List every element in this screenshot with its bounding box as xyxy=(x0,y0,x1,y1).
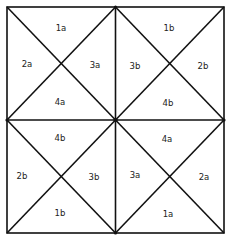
triangle-label: 3a xyxy=(90,60,101,70)
triangle-label: 1a xyxy=(163,209,174,219)
triangle-label: 3a xyxy=(130,170,141,180)
triangle-label: 2b xyxy=(198,61,209,71)
triangle-label: 1b xyxy=(164,23,175,33)
triangle-grid-diagram: 1a 2a 3a 4a 1b 3b 2b 4b 4b 2b 3b 1b 4a 3… xyxy=(0,0,228,240)
triangle-label: 3b xyxy=(130,61,141,71)
triangle-label: 2a xyxy=(22,59,33,69)
triangle-label: 1a xyxy=(56,23,67,33)
triangle-label: 3b xyxy=(89,172,100,182)
triangle-label: 2a xyxy=(199,172,210,182)
triangle-label: 4b xyxy=(163,98,174,108)
triangle-label: 4a xyxy=(162,134,173,144)
triangle-label: 4a xyxy=(55,97,66,107)
triangle-label: 4b xyxy=(55,133,66,143)
triangle-label: 1b xyxy=(55,208,66,218)
triangle-label: 2b xyxy=(17,171,28,181)
